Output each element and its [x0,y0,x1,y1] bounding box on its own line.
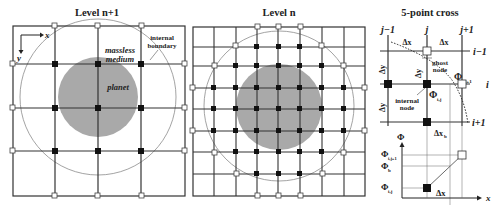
dx-label-2: Δx [439,38,448,47]
row-label-i: i [486,79,489,90]
interp-line [427,155,462,188]
row-label-i-minus-1: i−1 [473,46,487,57]
axis-x-label: x [44,30,50,40]
plot-ghost-node [458,151,466,159]
internal-node-left [384,80,392,88]
dx-label-1: Δx [402,38,411,47]
internal-label-2: node [400,104,414,112]
panel-level-n: Level n [190,7,367,198]
massless-label-2: medium [106,54,135,64]
axes-icon [19,33,45,55]
boundary-label-2: boundary [147,42,177,50]
internal-node-center [423,80,431,88]
dx-b-label: Δx [434,129,443,138]
phi-internal-sub: i,j [437,97,442,102]
panel-5-point-cross: 5-point cross j−1 j j+1 i−1 i i+1 Δx Δx … [378,7,491,205]
ghost-label-2: node [433,66,447,74]
panel-title: Level n [263,7,296,18]
plot-y-axis-label: Φ [397,132,405,142]
dx-b-sub: b [444,134,447,139]
plot-internal-node [423,184,431,192]
tick-phi-ghost-sub: i,j+1 [388,156,397,161]
dy-b-label: Δy [414,69,423,78]
panel-title: Level n+1 [75,7,119,18]
plot-x-axis-label: x [485,193,491,203]
planet-label: planet [106,82,129,92]
ghost-node-top [423,47,431,55]
dy-label-2: Δy [378,103,387,112]
x-arrow-icon [477,196,482,201]
col-label-j-minus-1: j−1 [379,24,395,35]
tick-phi-b-sub: b [388,168,391,173]
multigrid-diagram: Level n+1 [0,0,499,209]
row-label-i-plus-1: i+1 [472,117,485,128]
col-label-j: j [424,24,429,35]
internal-pointer [417,88,425,95]
internal-node-bottom [423,118,431,126]
y-arrow-icon [400,142,405,147]
panel-level-n-plus-1: Level n+1 [10,7,187,198]
boundary-pointer [150,50,158,60]
boundary-label-1: internal [150,34,174,42]
panel-title: 5-point cross [401,7,458,18]
axis-y-label: y [16,53,22,63]
tick-phi-internal-sub: i,j [388,189,393,194]
plot-dx-label: Δx [436,188,446,198]
dy-label-1: Δy [378,65,387,74]
col-label-j-plus-1: j+1 [458,24,473,35]
ghost-node-right [458,80,466,88]
